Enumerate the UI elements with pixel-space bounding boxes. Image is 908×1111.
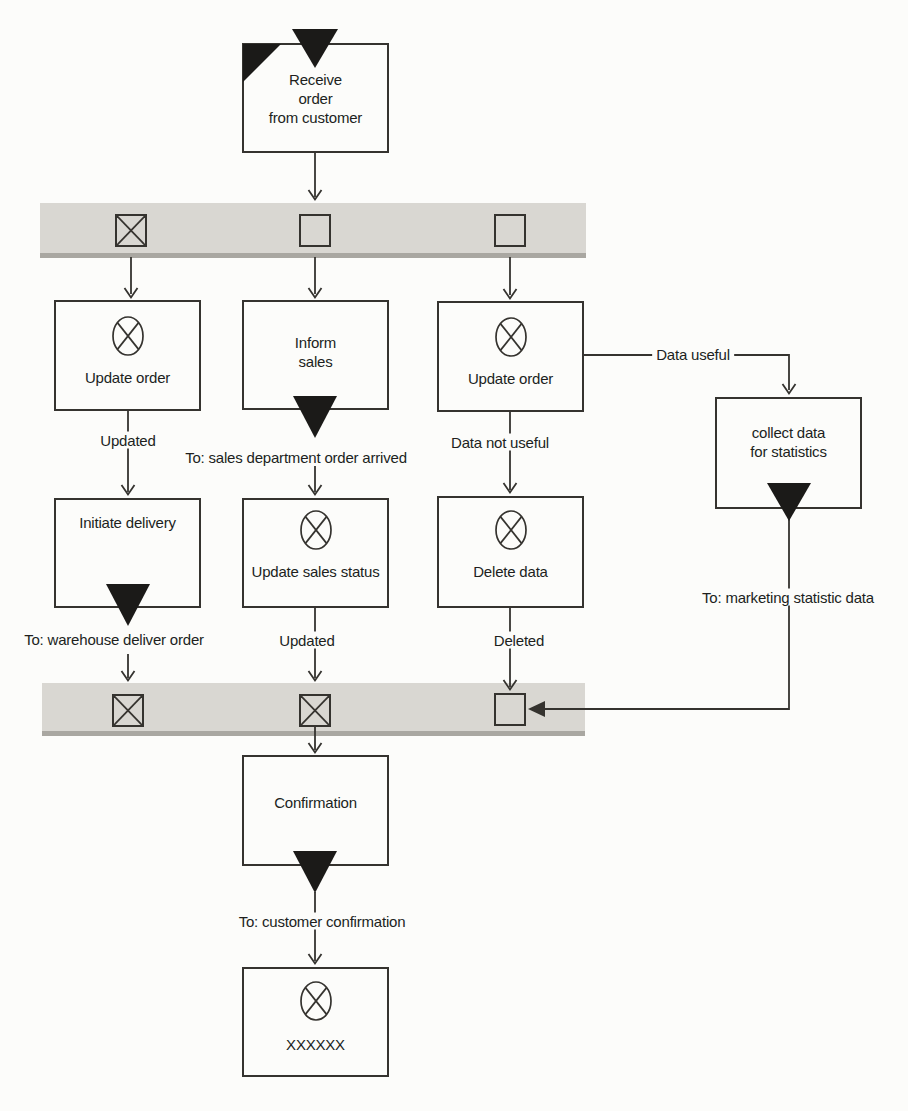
band1-connector-plain-box-middle (299, 214, 331, 247)
x-mark-icon (114, 696, 142, 725)
crossed-circle-icon (111, 315, 145, 357)
x-mark-icon (301, 696, 329, 725)
node-label: XXXXXX (286, 1035, 345, 1054)
band2-connector-crossed-box-middle (299, 694, 331, 727)
crossed-circle-icon (494, 316, 528, 358)
node-receive-order: Receive order from customer (242, 43, 389, 153)
crossed-circle-icon (299, 509, 333, 551)
node-update-order-right: Update order (437, 301, 584, 412)
x-mark-icon (117, 216, 145, 245)
edge-update-order-left-to-initiate-delivery (122, 411, 135, 495)
node-label: collect data for statistics (750, 423, 826, 461)
edge-label-to-warehouse: To: warehouse deliver order (20, 631, 208, 648)
node-delete-data: Delete data (437, 496, 584, 608)
node-label: Initiate delivery (79, 513, 176, 532)
edge-band1-to-update-order-left (125, 257, 138, 298)
edge-receive-order-to-band1 (309, 153, 322, 200)
crossed-circle-icon (494, 509, 528, 551)
node-label: Delete data (473, 562, 548, 581)
node-initiate-delivery: Initiate delivery (54, 498, 201, 608)
band1-connector-crossed-box (115, 214, 147, 247)
edge-label-updated-left: Updated (96, 432, 159, 449)
node-inform-sales: Inform sales (242, 300, 389, 410)
edge-label-to-marketing: To: marketing statistic data (698, 589, 878, 606)
edge-label-to-customer: To: customer confirmation (235, 913, 410, 930)
crossed-circle-icon (299, 980, 333, 1022)
band2-connector-plain-box-right (494, 693, 526, 726)
node-update-order-left: Update order (54, 300, 201, 411)
edge-band1-to-inform-sales (309, 257, 322, 298)
edge-delete-data-to-band2 (504, 608, 517, 690)
edge-label-data-not-useful: Data not useful (447, 434, 553, 451)
edge-update-order-right-to-delete-data (504, 412, 517, 493)
edge-label-deleted: Deleted (490, 632, 548, 649)
node-confirmation: Confirmation (242, 755, 389, 866)
node-final-state: XXXXXX (242, 967, 389, 1077)
edge-label-data-useful: Data useful (652, 346, 734, 363)
edge-inform-sales-to-update-sales-status (309, 466, 322, 495)
node-label: Update sales status (252, 562, 380, 581)
node-label: Update order (85, 368, 170, 387)
node-update-sales-status: Update sales status (242, 498, 389, 608)
edge-initiate-delivery-to-band2 (122, 654, 135, 681)
node-label: Inform sales (295, 333, 336, 371)
edge-band1-to-update-order-right (504, 257, 517, 299)
edge-label-updated-middle: Updated (275, 632, 338, 649)
scanned-diagram-page: Receive order from customer Update order… (0, 0, 908, 1111)
edge-label-to-sales-department: To: sales department order arrived (181, 449, 411, 466)
node-label: Update order (468, 369, 553, 388)
band2-connector-crossed-box-left (112, 694, 144, 727)
node-label: Receive order from customer (269, 70, 362, 127)
node-label: Confirmation (274, 793, 357, 812)
node-collect-data-for-statistics: collect data for statistics (715, 397, 862, 509)
band1-connector-plain-box-right (494, 214, 526, 247)
